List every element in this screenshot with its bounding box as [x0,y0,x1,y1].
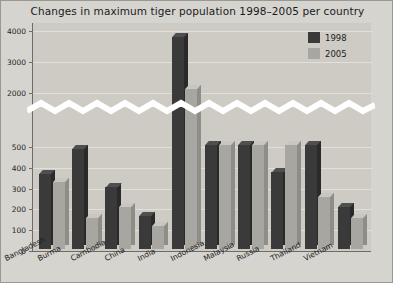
legend-item-2005: 2005 [308,48,368,59]
bar-vietnam-1998 [338,207,350,249]
bar-top [106,183,122,187]
tiger-population-bar-chart: Changes in maximum tiger population 1998… [0,0,393,283]
bar-side [264,141,268,245]
bar-side [197,85,201,245]
y-axis-tick-label: 300 [12,184,26,193]
chart-title: Changes in maximum tiger population 1998… [1,5,393,17]
bar-face [172,37,184,249]
bar-thailand-1998 [305,145,317,249]
bar-side [164,222,168,245]
bar-face [238,145,250,249]
chart-legend: 1998 2005 [308,32,368,64]
bar-china-2005 [152,226,164,249]
y-axis-tick [29,189,33,190]
bar-cambodia-1998 [105,187,117,249]
x-axis-labels: BangladeshBurmaCambodiaChinaIndiaIndones… [1,251,393,283]
bar-face [139,216,151,249]
bar-burma-1998 [72,149,84,249]
y-axis-tick-label: 400 [12,163,26,172]
legend-swatch-1998 [308,32,320,43]
bar-side [330,193,334,245]
bar-side [131,203,135,245]
bar-face [205,145,217,249]
bar-vietnam-2005 [351,218,363,249]
y-axis-tick [29,230,33,231]
bar-face [305,145,317,249]
bar-malaysia-2005 [252,145,264,249]
bar-face [285,145,297,249]
y-axis-tick-label: 500 [12,143,26,152]
legend-label-1998: 1998 [325,33,347,43]
bar-india-1998 [172,37,184,249]
bar-face [53,182,65,249]
bar-side [363,214,367,245]
legend-label-2005: 2005 [325,49,347,59]
y-axis-tick [29,168,33,169]
y-axis-tick [29,62,33,63]
bar-face [338,207,350,249]
y-axis-tick [29,93,33,94]
y-axis-tick-label: 3000 [7,58,26,67]
y-axis-tick-label: 4000 [7,27,26,36]
bar-bangladesh-2005 [53,182,65,249]
y-axis-tick-label: 100 [12,226,26,235]
bar-india-2005 [185,89,197,249]
bar-face [185,89,197,249]
bar-malaysia-1998 [238,145,250,249]
bar-indonesia-2005 [219,145,231,249]
y-axis-tick-label: 200 [12,205,26,214]
bar-china-1998 [139,216,151,249]
y-axis-tick [29,209,33,210]
bar-indonesia-1998 [205,145,217,249]
legend-swatch-2005 [308,48,320,59]
y-axis-tick [29,147,33,148]
bar-face [72,149,84,249]
bar-side [297,141,301,245]
bar-side [65,178,69,245]
bar-russia-1998 [271,172,283,249]
bar-face [152,226,164,249]
y-axis-tick-label: 2000 [7,89,26,98]
bar-face [219,145,231,249]
bar-face [105,187,117,249]
bar-face [119,207,131,249]
bar-face [351,218,363,249]
bar-russia-2005 [285,145,297,249]
y-axis-tick [29,31,33,32]
bar-side [231,141,235,245]
bar-face [252,145,264,249]
bar-cambodia-2005 [119,207,131,249]
legend-item-1998: 1998 [308,32,368,43]
bar-face [271,172,283,249]
gridline [33,93,372,94]
